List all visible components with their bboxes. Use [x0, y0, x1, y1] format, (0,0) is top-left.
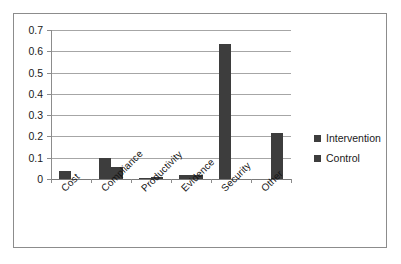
gridline — [51, 30, 291, 31]
gridline — [51, 51, 291, 52]
y-tick-label: 0.6 — [14, 46, 43, 56]
legend-label: Intervention — [326, 132, 381, 144]
x-tick-mark — [171, 179, 172, 183]
gridline — [51, 115, 291, 116]
y-tick-label: 0.3 — [14, 110, 43, 120]
x-tick-mark — [251, 179, 252, 183]
y-tick-mark — [47, 30, 51, 31]
y-tick-mark — [47, 115, 51, 116]
y-tick-mark — [47, 73, 51, 74]
y-tick-label: 0.1 — [14, 153, 43, 163]
legend-label: Control — [326, 152, 360, 164]
x-tick-mark — [131, 179, 132, 183]
x-tick-mark — [211, 179, 212, 183]
y-tick-label: 0.4 — [14, 89, 43, 99]
gridline — [51, 94, 291, 95]
bar — [219, 44, 231, 179]
y-tick-label: 0.2 — [14, 131, 43, 141]
legend-swatch-icon — [314, 155, 321, 162]
y-tick-label: 0.5 — [14, 68, 43, 78]
y-tick-mark — [47, 94, 51, 95]
y-tick-mark — [47, 136, 51, 137]
gridline — [51, 73, 291, 74]
gridline — [51, 136, 291, 137]
y-tick-mark — [47, 158, 51, 159]
legend-swatch-icon — [314, 135, 321, 142]
legend-item[interactable]: Control — [314, 148, 381, 168]
x-tick-mark — [291, 179, 292, 183]
x-tick-mark — [51, 179, 52, 183]
legend-item[interactable]: Intervention — [314, 128, 381, 148]
y-tick-label: 0 — [14, 174, 43, 184]
chart-frame: 0.70.60.50.40.30.20.10 CostCompliancePro… — [13, 13, 387, 248]
chart-legend: InterventionControl — [314, 128, 381, 168]
y-axis-line — [51, 30, 52, 179]
y-tick-label: 0.7 — [14, 25, 43, 35]
y-tick-mark — [47, 179, 51, 180]
x-tick-mark — [91, 179, 92, 183]
y-tick-mark — [47, 51, 51, 52]
